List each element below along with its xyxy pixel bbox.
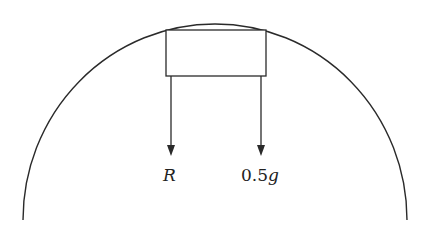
arrowhead-down-icon: [167, 145, 175, 156]
block: [166, 30, 266, 76]
diagram-canvas: [0, 0, 424, 226]
force-label-weight: 0.5g: [241, 165, 279, 185]
force-label-weight-text: 0.5g: [241, 165, 279, 185]
arrowhead-down-icon: [257, 145, 265, 156]
force-label-r: R: [163, 165, 176, 185]
